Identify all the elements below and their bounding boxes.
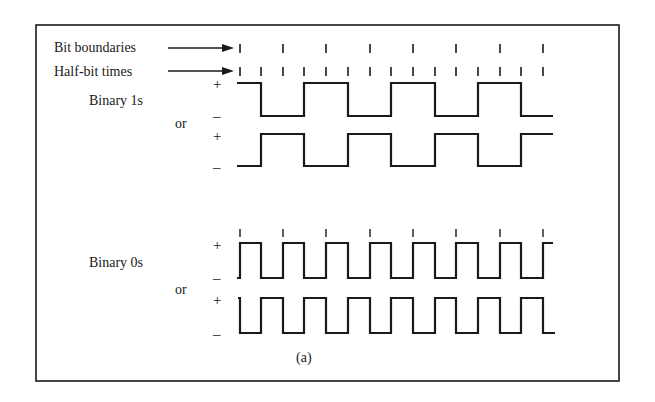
binary-1s-waveform-a [237, 83, 553, 116]
binary-0s-waveform-a [237, 243, 553, 278]
binary-0s-waveform-b [238, 298, 555, 333]
plus-sign: + [213, 237, 221, 253]
half-bit-ticks [240, 67, 543, 76]
plus-sign: + [213, 292, 221, 308]
binary-zeros-label: Binary 0s [89, 255, 143, 270]
bit-boundaries-label: Bit boundaries [54, 40, 136, 55]
binary-1s-waveform-b [237, 134, 553, 166]
minus-sign: – [212, 108, 221, 124]
minus-sign: – [212, 326, 221, 342]
plus-sign: + [213, 128, 221, 144]
plus-sign: + [213, 76, 221, 92]
binary-ones-label: Binary 1s [89, 93, 143, 108]
figure-caption: (a) [296, 350, 312, 366]
manchester-encoding-diagram: Bit boundaries Half-bit times [0, 0, 655, 402]
or-label-zeros: or [175, 282, 187, 297]
bit-boundaries-arrow-icon [168, 44, 234, 52]
half-bit-times-arrow-icon [168, 67, 234, 75]
half-bit-times-label: Half-bit times [54, 64, 132, 79]
minus-sign: – [212, 159, 221, 175]
minus-sign: – [212, 270, 221, 286]
bit-boundary-ticks [240, 44, 543, 53]
or-label-ones: or [175, 116, 187, 131]
binary-0s-bit-ticks [240, 229, 543, 237]
